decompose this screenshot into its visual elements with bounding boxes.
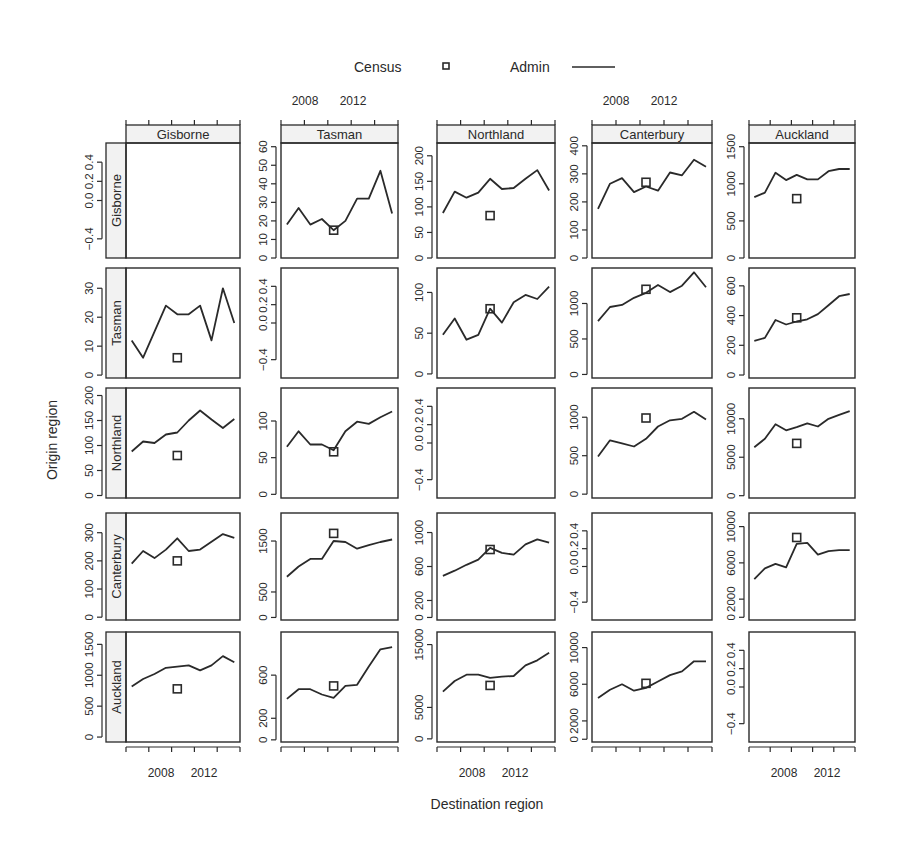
panel-auckland-to-tasman: 0200600: [257, 632, 398, 752]
y-tick-label: 0.2: [413, 417, 425, 433]
panel-tasman-to-canterbury: 05001000: [568, 268, 712, 378]
plot-frame: [437, 143, 555, 258]
census-point-square-icon: [793, 195, 801, 203]
panel-tasman-to-gisborne: Tasman0102030: [83, 268, 240, 378]
census-point-square-icon: [173, 557, 181, 565]
y-tick-label: 100: [83, 579, 95, 598]
panel-auckland-to-gisborne: Auckland05001000150020082012: [83, 632, 240, 780]
admin-series-line: [287, 647, 392, 699]
panel-canterbury-to-gisborne: Canterbury0100200300: [83, 513, 240, 620]
x-tick-label-top: 2012: [340, 94, 367, 108]
y-tick-label: 0.2: [568, 541, 580, 557]
plot-frame: [592, 513, 712, 620]
y-tick-label: 10000: [725, 511, 737, 543]
panel-gisborne-to-auckland: Auckland050010001500: [725, 120, 855, 261]
column-strip-label: Northland: [468, 127, 524, 142]
y-tick-label: 20: [83, 311, 95, 324]
y-tick-label: 0: [413, 736, 425, 742]
y-tick-label: 0.2: [725, 661, 737, 677]
admin-series-line: [132, 656, 235, 686]
y-tick-label: 600: [257, 666, 269, 685]
y-tick-label: 500: [257, 582, 269, 601]
row-strip-label: Canterbury: [109, 534, 124, 599]
plot-frame: [126, 268, 240, 378]
column-strip-label: Auckland: [775, 127, 828, 142]
y-tick-label: 200: [413, 146, 425, 165]
plot-frame: [592, 388, 712, 498]
y-tick-label: 200: [83, 386, 95, 405]
y-tick-label: 0: [725, 372, 737, 378]
plot-frame: [126, 388, 240, 498]
y-tick-label: 0.0: [413, 435, 425, 451]
y-tick-label: 15000: [413, 629, 425, 661]
y-tick-label: 150: [83, 411, 95, 430]
plot-frame: [437, 513, 555, 620]
admin-series-line: [598, 272, 706, 321]
panel-northland-to-canterbury: 05001000: [568, 388, 712, 498]
y-tick-label: 1000: [568, 291, 580, 317]
y-tick-label: 50: [83, 464, 95, 477]
x-tick-label: 2008: [771, 766, 798, 780]
y-tick-label: 50: [413, 327, 425, 340]
y-tick-label: 0.0: [568, 559, 580, 575]
census-point-square-icon: [642, 414, 650, 422]
y-tick-label: 0: [83, 492, 95, 498]
x-tick-label: 2012: [191, 766, 218, 780]
y-tick-label: 500: [83, 697, 95, 716]
y-tick-label: 1500: [83, 632, 95, 658]
plot-frame: [126, 143, 240, 258]
legend: Census Admin: [354, 59, 615, 75]
census-point-square-icon: [793, 439, 801, 447]
panel-auckland-to-auckland: −0.40.00.20.420082012: [725, 632, 855, 780]
y-tick-label: 0: [257, 255, 269, 261]
y-tick-label: 1500: [725, 134, 737, 160]
y-tick-label: 500: [568, 446, 580, 465]
admin-series-line: [287, 171, 392, 230]
y-tick-label: 50: [257, 159, 269, 172]
admin-series-line: [598, 661, 706, 698]
y-tick-label: 0: [413, 614, 425, 620]
census-point-square-icon: [330, 682, 338, 690]
census-point-square-icon: [173, 452, 181, 460]
y-tick-label: 0.2: [83, 173, 95, 189]
y-tick-label: 0.0: [83, 193, 95, 209]
plot-frame: [749, 268, 855, 378]
y-tick-label: 6000: [568, 671, 580, 697]
y-tick-label: 0.0: [257, 315, 269, 331]
y-tick-label: 2000: [568, 708, 580, 734]
y-tick-label: 5000: [725, 444, 737, 470]
panel-canterbury-to-canterbury: −0.40.00.20.4: [568, 513, 712, 620]
panel-gisborne-to-canterbury: Canterbury010020030040020082012: [568, 94, 712, 261]
plot-frame: [126, 513, 240, 620]
y-tick-label: 0: [257, 737, 269, 743]
y-tick-label: 1000: [725, 171, 737, 197]
y-tick-label: 0.4: [257, 278, 269, 295]
y-tick-label: 10: [83, 340, 95, 353]
admin-series-line: [443, 653, 549, 692]
y-tick-label: 100: [413, 283, 425, 302]
y-tick-label: 20: [257, 215, 269, 228]
row-strip-label: Tasman: [109, 300, 124, 346]
y-tick-label: 200: [413, 591, 425, 610]
y-tick-label: 0: [568, 491, 580, 497]
panel-northland-to-tasman: 050100: [257, 388, 398, 498]
admin-series-line: [443, 287, 549, 340]
y-tick-label: 300: [83, 523, 95, 542]
x-tick-label: 2012: [814, 766, 841, 780]
census-point-square-icon: [173, 354, 181, 362]
panel-northland-to-gisborne: Northland050100150200: [83, 386, 240, 499]
plot-frame: [749, 513, 855, 620]
admin-series-line: [754, 294, 849, 341]
y-tick-label: 10: [257, 233, 269, 246]
y-tick-label: 200: [568, 192, 580, 211]
y-tick-label: −0.4: [257, 348, 269, 371]
admin-series-line: [754, 543, 849, 579]
panel-gisborne-to-tasman: Tasman010203040506020082012: [257, 94, 398, 261]
y-tick-label: 10000: [568, 632, 580, 664]
x-axis-title: Destination region: [431, 796, 544, 812]
y-tick-label: 0.4: [83, 154, 95, 171]
y-tick-label: 1000: [83, 662, 95, 688]
census-point-square-icon: [793, 533, 801, 541]
y-tick-label: 0.4: [568, 522, 580, 539]
y-tick-label: 600: [413, 557, 425, 576]
